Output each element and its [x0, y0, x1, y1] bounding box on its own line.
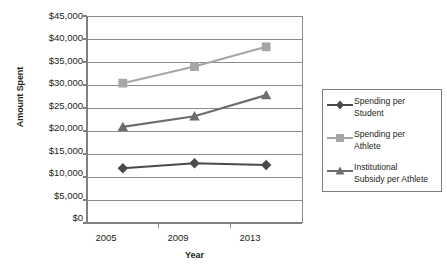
- x-tick-label-2005: 2005: [76, 232, 136, 243]
- legend-label: InstitutionalSubsidy per Athlete: [353, 162, 428, 185]
- data-point: [190, 62, 199, 71]
- legend: Spending perStudent Spending perAthlete …: [322, 89, 442, 192]
- x-axis-title: Year: [87, 250, 302, 260]
- legend-item-spending-per-student[interactable]: Spending perStudent: [327, 96, 441, 119]
- data-point: [118, 163, 128, 173]
- legend-label-line2: Athlete: [354, 141, 381, 151]
- legend-item-spending-per-athlete[interactable]: Spending perAthlete: [327, 129, 441, 152]
- legend-label: Spending perAthlete: [353, 129, 405, 152]
- series-3: [118, 90, 272, 131]
- line-chart: Amount Spent $45,000 $40,000 $35,000 $30…: [0, 0, 447, 270]
- series-1: [118, 158, 272, 173]
- data-point: [261, 90, 271, 99]
- series-2: [118, 42, 270, 87]
- data-point: [262, 42, 271, 51]
- x-tick-label-2013: 2013: [220, 232, 280, 243]
- diamond-marker-icon: [327, 97, 353, 109]
- legend-label-line1: Institutional: [354, 162, 397, 172]
- triangle-marker-icon: [327, 163, 353, 175]
- x-tick-label-2009: 2009: [148, 232, 208, 243]
- legend-label-line1: Spending per: [354, 96, 405, 106]
- data-point: [261, 160, 271, 170]
- legend-label-line2: Subsidy per Athlete: [354, 174, 428, 184]
- legend-item-institutional-subsidy-per-athlete[interactable]: InstitutionalSubsidy per Athlete: [327, 162, 441, 185]
- data-point: [189, 158, 199, 168]
- data-point: [118, 79, 127, 88]
- legend-label-line1: Spending per: [354, 129, 405, 139]
- legend-label: Spending perStudent: [353, 96, 405, 119]
- square-marker-icon: [327, 130, 353, 142]
- legend-label-line2: Student: [354, 108, 384, 118]
